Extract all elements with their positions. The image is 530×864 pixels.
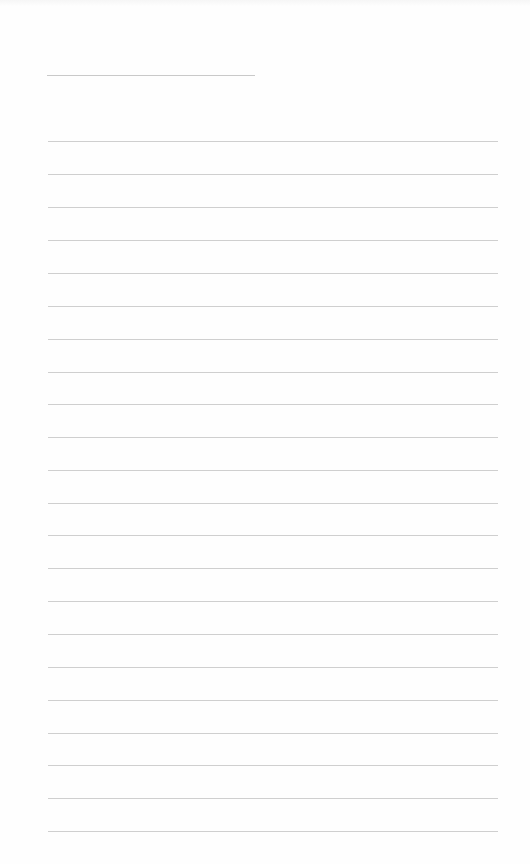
ruled-line bbox=[48, 765, 498, 766]
ruled-line bbox=[48, 700, 498, 701]
ruled-line bbox=[48, 339, 498, 340]
ruled-line bbox=[48, 404, 498, 405]
ruled-line bbox=[48, 601, 498, 602]
ruled-line bbox=[48, 667, 498, 668]
ruled-line bbox=[48, 372, 498, 373]
notebook-page bbox=[0, 0, 530, 864]
title-line bbox=[47, 75, 255, 76]
ruled-line bbox=[48, 568, 498, 569]
ruled-line bbox=[48, 207, 498, 208]
ruled-line bbox=[48, 733, 498, 734]
ruled-line bbox=[48, 141, 498, 142]
ruled-line bbox=[48, 174, 498, 175]
ruled-line bbox=[48, 831, 498, 832]
ruled-line bbox=[48, 437, 498, 438]
scan-edge-bleed bbox=[0, 0, 530, 6]
ruled-line bbox=[48, 798, 498, 799]
ruled-line bbox=[48, 503, 498, 504]
ruled-line bbox=[48, 273, 498, 274]
ruled-line bbox=[48, 306, 498, 307]
ruled-line bbox=[48, 240, 498, 241]
ruled-line bbox=[48, 470, 498, 471]
ruled-line bbox=[48, 634, 498, 635]
ruled-line bbox=[48, 535, 498, 536]
